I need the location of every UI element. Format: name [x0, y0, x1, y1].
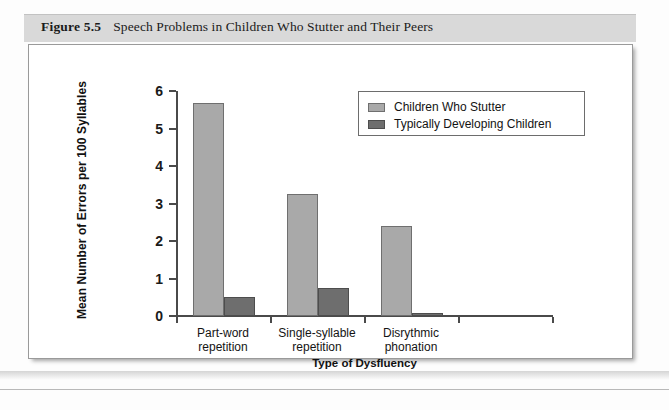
legend-swatch-icon	[368, 120, 385, 129]
figure-caption: Figure 5.5Speech Problems in Children Wh…	[41, 19, 433, 35]
legend-item-label: Children Who Stutter	[394, 100, 505, 114]
bar-chart: 0 1 2 3 4 5 6	[29, 45, 632, 358]
page-bottom-rule	[0, 389, 669, 390]
x-axis-title: Type of Dysfluency	[176, 357, 553, 369]
bar-typically-developing-disrythmic	[412, 313, 443, 316]
x-axis-tick	[552, 317, 554, 323]
y-axis-tick	[169, 165, 176, 167]
x-axis-tick	[176, 317, 178, 323]
y-axis-tick-label: 3	[139, 197, 163, 211]
figure-number-label: Figure 5.5	[41, 19, 101, 34]
y-axis-line	[176, 91, 178, 317]
legend-swatch-icon	[368, 103, 385, 112]
legend-item-label: Typically Developing Children	[394, 117, 551, 131]
y-axis-tick-label: 4	[139, 159, 163, 173]
x-axis-category-line: Disrythmic	[355, 326, 467, 340]
y-axis-tick-label: 5	[139, 122, 163, 136]
x-axis-tick	[364, 317, 366, 323]
x-axis-tick	[458, 317, 460, 323]
figure-title-text: Speech Problems in Children Who Stutter …	[113, 19, 433, 34]
x-axis-tick	[270, 317, 272, 323]
y-axis-title: Mean Number of Errors per 100 Syllables	[75, 89, 89, 319]
page-edge-shadow	[0, 371, 669, 380]
y-axis-tick	[169, 203, 176, 205]
y-axis-tick	[169, 128, 176, 130]
y-axis-tick	[169, 90, 176, 92]
y-axis-tick	[169, 278, 176, 280]
x-axis-category-line: phonation	[355, 340, 467, 354]
y-axis-tick-label: 0	[139, 309, 163, 323]
figure-block: Figure 5.5Speech Problems in Children Wh…	[24, 14, 636, 364]
figure-caption-band: Figure 5.5Speech Problems in Children Wh…	[24, 14, 636, 42]
y-axis-tick-label: 1	[139, 272, 163, 286]
y-axis-tick-label: 2	[139, 234, 163, 248]
y-axis-tick	[169, 315, 176, 317]
legend-item: Children Who Stutter	[368, 99, 505, 115]
x-axis-category-label: Disrythmic phonation	[355, 326, 467, 354]
y-axis-tick	[169, 240, 176, 242]
bar-children-who-stutter-disrythmic	[381, 226, 412, 316]
bar-typically-developing-part-word	[224, 297, 255, 316]
bar-children-who-stutter-single-syllable	[287, 194, 318, 316]
figure-panel: 0 1 2 3 4 5 6	[28, 44, 633, 359]
y-axis-tick-label: 6	[139, 84, 163, 98]
bar-children-who-stutter-part-word	[193, 103, 224, 316]
bar-typically-developing-single-syllable	[318, 288, 349, 316]
legend-item: Typically Developing Children	[368, 116, 551, 132]
chart-legend: Children Who Stutter Typically Developin…	[358, 91, 585, 136]
